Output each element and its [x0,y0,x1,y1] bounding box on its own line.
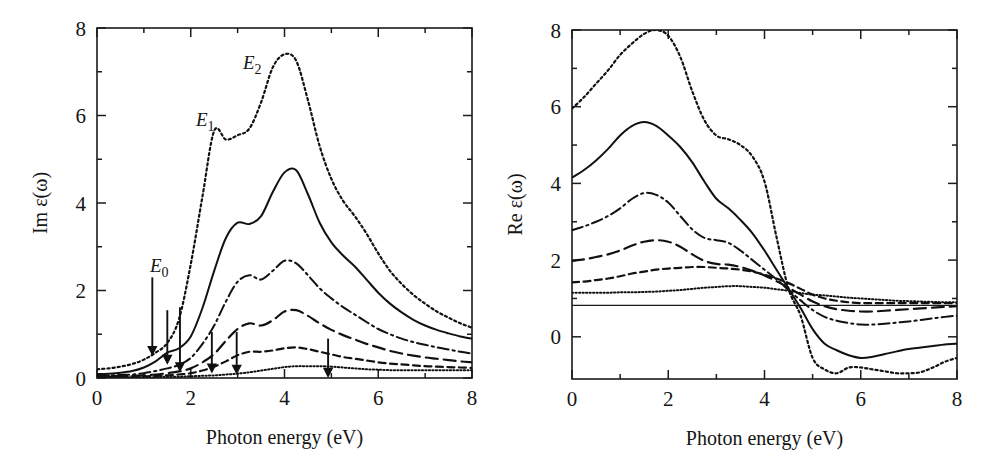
x-tick-label: 2 [186,386,197,410]
annotation-subscript: 2 [255,62,262,77]
annotation-E2: E2 [242,52,262,77]
arrow-head-4 [233,366,240,373]
curves-real-dielectric-function [572,30,957,373]
annotation-subscript: 1 [208,119,215,134]
x-tick-label: 0 [567,387,578,411]
dielectric-function-figure: 0246802468Photon energy (eV)Im ε(ω)E0E1E… [0,0,997,474]
y-tick-label: 4 [76,192,87,216]
ticks-real-dielectric-function [572,30,957,379]
plot-frame-real-dielectric-function [572,30,957,379]
annotation-E0: E0 [149,255,169,280]
annotation-base: E [195,109,208,130]
y-tick-label: 0 [551,325,562,349]
x-tick-label: 6 [856,387,867,411]
panel-real-dielectric-function: 0246802468Photon energy (eV)Re ε(ω) [504,19,962,451]
arrow-head-1 [164,356,171,363]
x-tick-label: 8 [952,387,963,411]
annotation-E1: E1 [195,109,215,134]
figure-canvas: 0246802468Photon energy (eV)Im ε(ω)E0E1E… [0,0,997,474]
arrow-head-2 [176,363,183,370]
y-tick-label: 4 [551,172,562,196]
arrow-head-3 [208,364,215,371]
curve-curve-5-dash [572,267,957,303]
y-tick-label: 2 [551,249,562,273]
x-tick-label: 4 [759,387,770,411]
curve-curve-6-fine-dotted [572,286,957,302]
x-axis-label: Photon energy (eV) [206,426,363,449]
annotation-subscript: 0 [162,265,169,280]
y-axis-label: Im ε(ω) [29,172,52,234]
arrow-head-0 [149,347,156,354]
annotation-base: E [242,52,255,73]
x-tick-label: 4 [279,386,290,410]
x-tick-label: 2 [663,387,674,411]
y-tick-label: 0 [76,367,87,391]
arrow-head-5 [324,369,331,376]
x-axis-label: Photon energy (eV) [686,427,843,450]
y-tick-label: 8 [76,17,87,41]
x-tick-label: 8 [467,386,478,410]
annotation-base: E [149,255,162,276]
y-tick-label: 2 [76,279,87,303]
y-tick-label: 6 [76,104,87,128]
x-tick-label: 6 [373,386,384,410]
y-tick-label: 8 [551,19,562,43]
panel-imaginary-dielectric-function: 0246802468Photon energy (eV)Im ε(ω)E0E1E… [29,17,477,450]
y-axis-label: Re ε(ω) [504,173,527,235]
y-tick-label: 6 [551,95,562,119]
x-tick-label: 0 [92,386,103,410]
